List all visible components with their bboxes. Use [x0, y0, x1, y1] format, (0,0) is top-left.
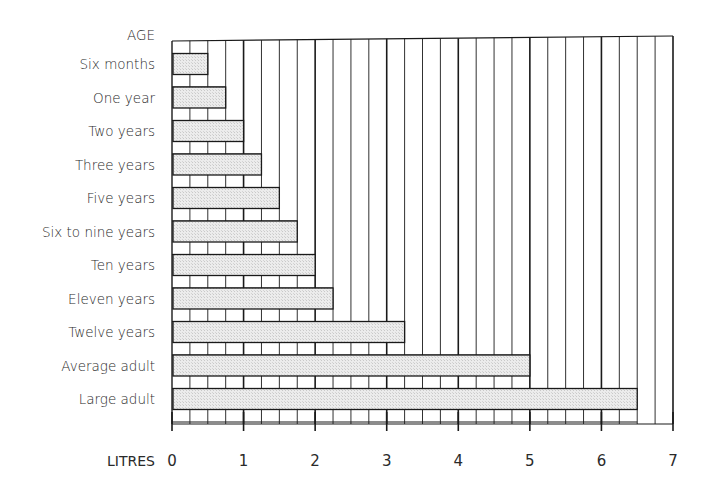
category-label: Ten years	[91, 257, 155, 273]
lung-capacity-bar-chart: Six monthsOne yearTwo yearsThree yearsFi…	[0, 0, 702, 491]
bar-six-to-nine-years	[173, 221, 297, 242]
bar-ten-years	[173, 255, 315, 276]
y-axis-title: AGE	[127, 27, 155, 43]
x-axis-title: LITRES	[107, 453, 155, 469]
bar-three-years	[173, 154, 261, 175]
bar-large-adult	[173, 389, 637, 410]
x-tick-label: 5	[525, 452, 535, 470]
category-label: One year	[93, 90, 155, 106]
category-label: Average adult	[61, 358, 155, 374]
bar-five-years	[173, 188, 279, 209]
x-tick-label: 6	[597, 452, 607, 470]
x-tick-label: 4	[454, 452, 464, 470]
bar-average-adult	[173, 355, 530, 376]
bar-twelve-years	[173, 322, 405, 343]
bar-two-years	[173, 121, 244, 142]
category-label: Five years	[87, 190, 155, 206]
x-tick-label: 0	[167, 452, 177, 470]
bar-one-year	[173, 87, 226, 108]
x-tick-label: 7	[668, 452, 678, 470]
x-tick-label: 3	[382, 452, 392, 470]
bar-six-months	[173, 54, 208, 75]
category-label: Large adult	[79, 391, 155, 407]
bars	[173, 54, 637, 410]
category-label: Six months	[80, 56, 155, 72]
category-label: Two years	[88, 123, 155, 139]
x-tick-label: 2	[310, 452, 320, 470]
x-tick-label: 1	[239, 452, 249, 470]
category-label: Three years	[75, 157, 155, 173]
category-label: Twelve years	[68, 324, 155, 340]
category-label: Eleven years	[68, 291, 155, 307]
bar-eleven-years	[173, 288, 333, 309]
category-labels: Six monthsOne yearTwo yearsThree yearsFi…	[42, 56, 156, 407]
category-label: Six to nine years	[42, 224, 155, 240]
